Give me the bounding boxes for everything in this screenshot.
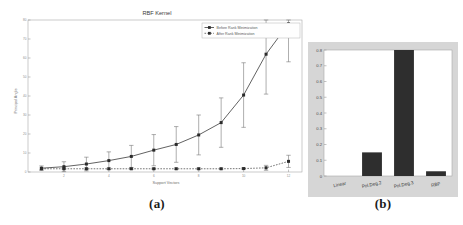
data-point-marker bbox=[242, 94, 245, 97]
data-point-marker bbox=[40, 167, 43, 170]
y-tick-label-b: 0.7 bbox=[316, 63, 322, 68]
y-tick-label: 40 bbox=[23, 94, 27, 98]
x-tick-label: 8 bbox=[198, 174, 200, 178]
y-axis-label-a: Principal Angle bbox=[14, 88, 18, 113]
figure-container: 01020304050607080 24681012 RBF Kernel Su… bbox=[0, 0, 463, 225]
x-tick-label: 2 bbox=[63, 174, 65, 178]
data-point-marker bbox=[287, 160, 290, 163]
data-point-marker bbox=[265, 166, 268, 169]
chart-title-a: RBF Kernel bbox=[143, 10, 172, 16]
data-point-marker bbox=[175, 143, 178, 146]
y-tick-label-b: 0.5 bbox=[316, 95, 322, 100]
data-point-marker bbox=[152, 149, 155, 152]
legend-marker bbox=[208, 26, 211, 29]
plot-area-a bbox=[28, 20, 302, 172]
y-tick-label: 10 bbox=[23, 151, 27, 155]
bar-chart-kernels: 00.10.20.30.40.50.60.70.8 LinearPol.Deg.… bbox=[308, 42, 458, 197]
plot-frame-b bbox=[324, 50, 452, 176]
x-axis-label-a: Support Vectors bbox=[152, 181, 179, 185]
data-point-marker bbox=[130, 155, 133, 158]
bar bbox=[426, 171, 446, 176]
legend-a[interactable]: Before Rank MinimizationAfter Rank Minim… bbox=[202, 23, 300, 38]
data-point-marker bbox=[152, 167, 155, 170]
data-point-marker bbox=[62, 167, 65, 170]
data-point-marker bbox=[107, 159, 110, 162]
y-tick-label-b: 0.3 bbox=[316, 126, 322, 131]
y-tick-label: 60 bbox=[23, 56, 27, 60]
data-point-marker bbox=[197, 167, 200, 170]
data-point-marker bbox=[220, 121, 223, 124]
data-point-marker bbox=[242, 167, 245, 170]
plot-area-b bbox=[324, 50, 452, 176]
y-tick-label: 70 bbox=[23, 37, 27, 41]
legend-label: After Rank Minimization bbox=[217, 32, 255, 36]
y-tick-label-b: 0.8 bbox=[316, 48, 322, 53]
y-tick-label-b: 0.6 bbox=[316, 79, 322, 84]
panel-a: 01020304050607080 24681012 RBF Kernel Su… bbox=[6, 6, 308, 222]
data-point-marker bbox=[265, 53, 268, 56]
x-tick-label: 12 bbox=[287, 174, 291, 178]
plot-frame-a bbox=[28, 20, 302, 172]
y-tick-label-b: 0.4 bbox=[316, 111, 322, 116]
caption-panel-a: (a) bbox=[6, 196, 308, 212]
y-tick-label: 80 bbox=[23, 18, 27, 22]
data-point-marker bbox=[197, 133, 200, 136]
y-tick-label: 0 bbox=[25, 170, 27, 174]
x-tick-label: 4 bbox=[108, 174, 110, 178]
caption-panel-b: (b) bbox=[308, 196, 458, 212]
legend-marker bbox=[208, 32, 211, 35]
data-point-marker bbox=[220, 167, 223, 170]
panel-b: 00.10.20.30.40.50.60.70.8 LinearPol.Deg.… bbox=[308, 6, 460, 222]
y-tick-label: 50 bbox=[23, 75, 27, 79]
data-point-marker bbox=[85, 167, 88, 170]
data-point-marker bbox=[175, 167, 178, 170]
data-point-marker bbox=[130, 167, 133, 170]
bar bbox=[394, 50, 414, 176]
x-tick-label: 10 bbox=[242, 174, 246, 178]
data-point-marker bbox=[85, 163, 88, 166]
bar bbox=[362, 152, 382, 176]
data-point-marker bbox=[107, 167, 110, 170]
x-tick-label: 6 bbox=[153, 174, 155, 178]
y-tick-label-b: 0.2 bbox=[316, 142, 322, 147]
legend-label: Before Rank Minimization bbox=[217, 26, 258, 30]
y-tick-label-b: 0.1 bbox=[316, 158, 322, 163]
y-tick-label: 30 bbox=[23, 113, 27, 117]
y-tick-label: 20 bbox=[23, 132, 27, 136]
line-chart-rbf-kernel: 01020304050607080 24681012 RBF Kernel Su… bbox=[6, 6, 308, 198]
